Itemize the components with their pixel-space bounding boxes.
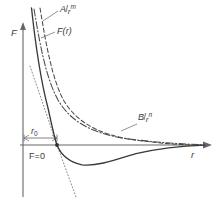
y-axis-label: F [11,28,17,38]
attractive-term-label: B/rn [138,113,152,122]
force-zero-label: F=0 [29,152,45,161]
attractive-exponent: n [148,111,152,118]
leader-line-attractive [121,124,137,131]
r-zero-subscript: 0 [34,130,38,137]
r0-measure-bracket [24,135,57,142]
leader-line-resultant [41,32,55,38]
force-distance-diagram: F r r0 F=0 A/rm F(r) B/rn [0,0,222,205]
repulsive-term-label: A/rm [60,5,76,14]
repulsive-exponent: m [70,3,76,10]
r-zero-label: r0 [31,127,38,136]
plot-canvas [0,0,222,205]
x-axis-label: r [191,150,194,160]
leader-line-repulsive [43,11,58,21]
zero-crossing-marker [55,143,59,147]
y-axis [20,22,26,197]
resultant-force-label: F(r) [57,27,72,36]
